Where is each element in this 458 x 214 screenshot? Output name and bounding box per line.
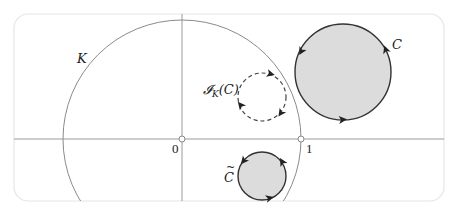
label-inverse: 𝓘K(C) (203, 82, 239, 99)
unit-point (298, 136, 304, 142)
orientation-arrow-icon (266, 69, 276, 79)
label-C: C (392, 37, 402, 52)
orientation-arrow-icon (275, 108, 286, 119)
label-origin: 0 (172, 141, 179, 156)
circle-inverse-IKC (235, 69, 286, 121)
label-C-tilde-mark: ~ (226, 161, 235, 174)
label-K: K (76, 51, 88, 66)
label-unit: 1 (306, 141, 313, 156)
orientation-arrow-icon (235, 99, 246, 110)
circle-C (295, 24, 391, 124)
circle-C-tilde (238, 152, 288, 203)
origin-point (179, 136, 185, 142)
inversion-diagram: K C 𝓘K(C) C ~ 0 1 (0, 0, 458, 214)
